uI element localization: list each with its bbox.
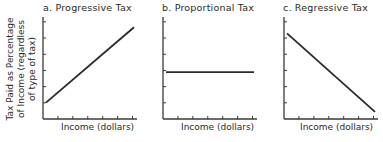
y-axis-label-line-1: Tax Paid as Percentage	[5, 14, 16, 124]
panel-regressive: c. Regressive Tax Income (dollars)	[284, 0, 383, 142]
tax-rate-line	[46, 27, 134, 102]
x-axis-label: Income (dollars)	[61, 122, 134, 132]
y-axis-label-line-3: of type of tax)	[27, 14, 38, 124]
panel-proportional: b. Proportional Tax Income (dollars)	[163, 0, 263, 142]
y-axis-label-line-2: of Income (regardless	[16, 14, 27, 124]
x-axis-label: Income (dollars)	[181, 122, 254, 132]
plot-area	[163, 0, 263, 142]
x-axis-label: Income (dollars)	[300, 122, 373, 132]
y-axis-label: Tax Paid as Percentage of Income (regard…	[0, 14, 42, 124]
panel-progressive: a. Progressive Tax Income (dollars)	[43, 0, 143, 142]
plot-area	[43, 0, 143, 142]
tax-rate-line	[287, 33, 375, 112]
plot-area	[284, 0, 383, 142]
